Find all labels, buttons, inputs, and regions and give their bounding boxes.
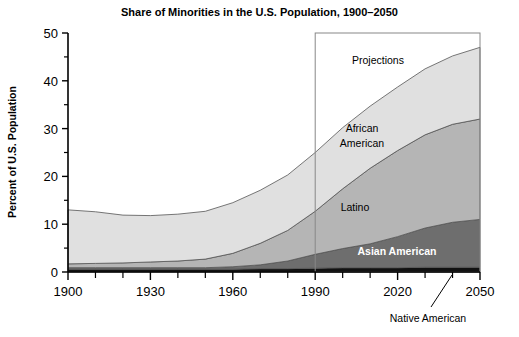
- x-tick-label: 1930: [136, 284, 165, 299]
- x-tick-labels: 190019301960199020202050: [54, 272, 495, 299]
- native-american-label: Native American: [390, 312, 467, 324]
- projections-label: Projections: [352, 54, 404, 66]
- x-tick-label: 1990: [301, 284, 330, 299]
- latino-label: Latino: [341, 201, 370, 213]
- x-tick-label: 2020: [383, 284, 412, 299]
- y-axis-label: Percent of U.S. Population: [6, 86, 18, 218]
- y-tick-label: 10: [44, 217, 58, 232]
- asian-american-label: Asian American: [358, 245, 437, 257]
- y-tick-label: 20: [44, 169, 58, 184]
- area-chart-svg: Share of Minorities in the U.S. Populati…: [0, 0, 519, 337]
- y-tick-label: 40: [44, 74, 58, 89]
- native-american-leader-line: [431, 275, 452, 307]
- stacked-areas: [68, 47, 480, 272]
- y-tick-labels: 01020304050: [44, 26, 68, 280]
- chart-title: Share of Minorities in the U.S. Populati…: [121, 6, 398, 18]
- x-tick-label: 1900: [54, 284, 83, 299]
- african-american-label-line2: American: [340, 137, 385, 149]
- chart-figure: Share of Minorities in the U.S. Populati…: [0, 0, 519, 337]
- x-tick-label: 1960: [218, 284, 247, 299]
- african-american-label-line1: African: [346, 122, 379, 134]
- x-tick-label: 2050: [466, 284, 495, 299]
- y-tick-label: 30: [44, 122, 58, 137]
- y-tick-label: 50: [44, 26, 58, 41]
- y-tick-label: 0: [51, 265, 58, 280]
